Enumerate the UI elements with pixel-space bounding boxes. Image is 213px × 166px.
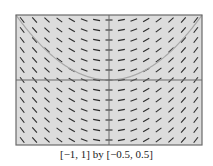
slope-field-plot [0,0,213,166]
window-caption: [−1, 1] by [−0.5, 0.5] [0,148,213,160]
